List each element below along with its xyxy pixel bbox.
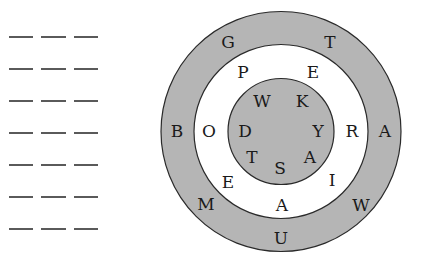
wheel-letter: A (378, 121, 392, 141)
wheel-letter: K (296, 91, 309, 111)
wheel-letter: Y (311, 121, 324, 141)
wheel-letter: D (238, 121, 252, 141)
wheel-letter: T (324, 32, 336, 52)
letter-wheel: GTBAMWU PEOREIA WKDYTAS (0, 0, 422, 262)
wheel-letter: W (253, 91, 271, 111)
wheel-letter: R (346, 121, 360, 141)
wheel-letter: U (274, 228, 288, 248)
wheel-letter: E (307, 62, 319, 82)
wheel-letter: I (329, 170, 336, 190)
wheel-letter: A (275, 195, 289, 215)
wheel-letter: A (303, 147, 317, 167)
wheel-letter: B (171, 121, 184, 141)
wheel-letter: P (237, 62, 248, 82)
wheel-letter: T (246, 147, 258, 167)
wheel-letter: G (221, 32, 235, 52)
wheel-letter: S (274, 158, 286, 178)
wheel-letter: W (352, 195, 370, 215)
wheel-letter: O (202, 121, 216, 141)
wheel-letter: E (222, 172, 234, 192)
wheel-letter: M (197, 194, 214, 214)
